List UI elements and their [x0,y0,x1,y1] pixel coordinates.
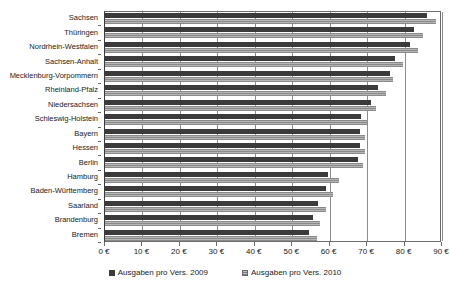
bar-2009 [105,230,309,235]
x-axis-tick [216,242,217,246]
plot-area [104,11,441,242]
bar-2009 [105,56,395,61]
bar-2009 [105,201,318,206]
category-tick [98,98,101,99]
category-tick [98,112,101,113]
x-axis-tick-label: 30 € [209,247,225,257]
category-tick [98,213,101,214]
bar-group [105,55,440,69]
bar-2010 [105,178,339,183]
x-axis-tick-label: 80 € [396,247,412,257]
legend-item-2010[interactable]: Ausgaben pro Vers. 2010 [242,268,341,278]
bar-group [105,84,440,98]
x-axis: 0 €10 €20 €30 €40 €50 €60 €70 €80 €90 € [104,242,441,262]
bar-2010 [105,207,326,212]
x-axis-tick [179,242,180,246]
category-tick [98,170,101,171]
category-tick [98,199,101,200]
bar-group [105,185,440,199]
bar-group [105,171,440,185]
x-axis-tick [104,242,105,246]
bar-group [105,214,440,228]
category-tick [98,127,101,128]
bar-group [105,70,440,84]
category-tick [98,184,101,185]
category-tick [98,54,101,55]
x-axis-tick-label: 10 € [134,247,150,257]
bar-2009 [105,114,361,119]
bar-2009 [105,186,326,191]
chart-legend: Ausgaben pro Vers. 2009Ausgaben pro Vers… [0,268,450,278]
bar-2010 [105,106,376,111]
category-label: Sachsen [69,14,98,22]
category-label: Sachsen-Anhalt [45,58,98,66]
category-tick [98,40,101,41]
category-tick [98,155,101,156]
x-axis-tick-label: 90 € [433,247,449,257]
bar-2010 [105,62,403,67]
bar-group [105,26,440,40]
legend-item-2009[interactable]: Ausgaben pro Vers. 2009 [109,268,208,278]
x-axis-tick-label: 0 € [98,247,109,257]
bar-2010 [105,48,418,53]
bar-2009 [105,129,360,134]
gridline [442,12,443,241]
bar-chart: SachsenThüringenNordrhein-WestfalenSachs… [0,0,450,288]
category-label: Hamburg [67,173,98,181]
legend-label: Ausgaben pro Vers. 2009 [118,268,208,278]
bar-2010 [105,77,393,82]
bar-group [105,128,440,142]
bar-group [105,12,440,26]
category-label: Thüringen [64,29,98,37]
category-label: Niedersachsen [48,101,98,109]
x-axis-tick-label: 40 € [246,247,262,257]
bar-2009 [105,42,410,47]
category-label: Berlin [79,159,98,167]
x-axis-tick-label: 50 € [283,247,299,257]
bar-2009 [105,143,360,148]
category-tick [98,83,101,84]
category-tick [98,69,101,70]
bar-group [105,156,440,170]
bar-2010 [105,221,320,226]
bar-2009 [105,27,414,32]
bar-2009 [105,13,427,18]
x-axis-tick [404,242,405,246]
category-tick [98,141,101,142]
bar-group [105,142,440,156]
x-axis-tick [441,242,442,246]
bar-2010 [105,120,367,125]
category-label: Saarland [68,202,98,210]
bar-2010 [105,91,386,96]
bar-2009 [105,100,371,105]
x-axis-tick [254,242,255,246]
x-axis-tick [141,242,142,246]
bar-2009 [105,215,313,220]
bar-2009 [105,71,390,76]
bar-group [105,200,440,214]
bar-2010 [105,163,363,168]
bar-group [105,229,440,243]
x-axis-tick-label: 20 € [171,247,187,257]
category-label: Bremen [72,231,98,239]
bar-2010 [105,236,317,241]
bar-group [105,99,440,113]
x-axis-tick [366,242,367,246]
category-label: Nordrhein-Westfalen [29,43,98,51]
bar-2010 [105,192,333,197]
bar-2010 [105,19,436,24]
bar-2009 [105,172,328,177]
category-label: Mecklenburg-Vorpommern [10,72,98,80]
category-axis: SachsenThüringenNordrhein-WestfalenSachs… [0,11,101,242]
bar-rows [105,12,440,241]
x-axis-tick [329,242,330,246]
legend-swatch-icon [109,270,115,276]
category-tick [98,228,101,229]
legend-swatch-icon [242,270,248,276]
category-label: Bayern [74,130,98,138]
bar-2010 [105,135,365,140]
category-label: Schleswig-Holstein [35,115,98,123]
x-axis-tick-label: 70 € [358,247,374,257]
bar-2009 [105,157,358,162]
x-axis-tick [291,242,292,246]
